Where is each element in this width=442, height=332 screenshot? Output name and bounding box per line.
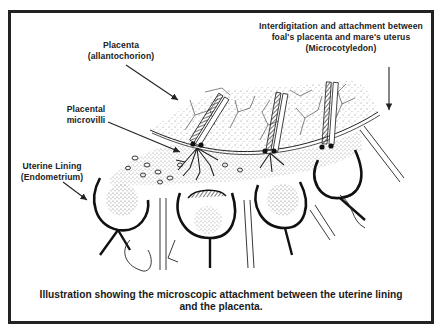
uterine-lining-label-line2: (Endometrium) — [16, 172, 88, 183]
caption-line2: and the placenta. — [14, 301, 428, 313]
microvilli-label-line1: Placental — [56, 104, 116, 115]
microcotyledon-label: Interdigitation and attachment between f… — [246, 21, 436, 54]
microcotyledon-label-line3: (Microcotyledon) — [246, 43, 436, 54]
placenta-label-line2: (allantochorion) — [76, 51, 166, 62]
uterine-lining-label: Uterine Lining (Endometrium) — [16, 161, 88, 183]
figure-caption: Illustration showing the microscopic att… — [14, 289, 428, 313]
microcotyledon-label-line2: foal's placenta and mare's uterus — [246, 32, 436, 43]
caption-line1: Illustration showing the microscopic att… — [14, 289, 428, 301]
uterine-lining-label-line1: Uterine Lining — [16, 161, 88, 172]
microvilli-label: Placental microvilli — [56, 104, 116, 126]
microvilli-label-line2: microvilli — [56, 115, 116, 126]
microcotyledon-label-line1: Interdigitation and attachment between — [246, 21, 436, 32]
placenta-label: Placenta (allantochorion) — [76, 40, 166, 62]
placenta-label-line1: Placenta — [76, 40, 166, 51]
